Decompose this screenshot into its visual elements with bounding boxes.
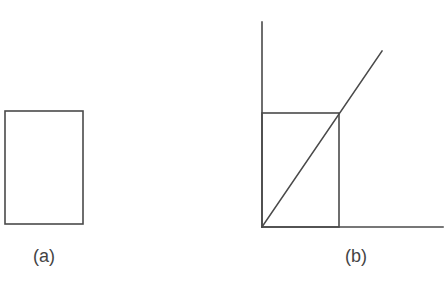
panel-b: (b): [262, 22, 443, 266]
panel-a-rectangle: [5, 111, 83, 224]
diagram-canvas: (a) (b): [0, 0, 447, 288]
panel-a: (a): [5, 111, 83, 266]
panel-b-diagonal-line: [262, 51, 382, 227]
panel-a-label: (a): [33, 246, 55, 266]
panel-b-label: (b): [345, 246, 367, 266]
